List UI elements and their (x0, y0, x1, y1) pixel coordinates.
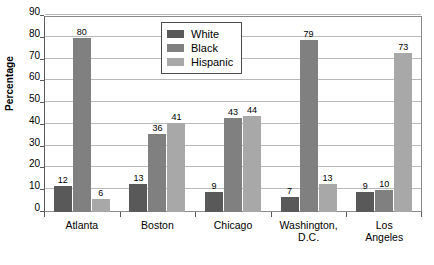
y-axis-tick-label: 90 (0, 6, 40, 17)
bar-value-label: 80 (77, 27, 87, 37)
bar (54, 186, 72, 212)
y-axis-tick-label: 30 (0, 136, 40, 147)
legend-swatch (167, 58, 184, 66)
bar-value-label: 6 (98, 188, 103, 198)
bar-value-label: 10 (379, 179, 389, 189)
bar (356, 192, 374, 212)
bar (167, 123, 185, 212)
bar-value-label: 13 (323, 173, 333, 183)
y-axis-tick-label: 50 (0, 93, 40, 104)
bar (243, 116, 261, 212)
legend-label: Hispanic (191, 55, 233, 69)
y-axis-tick-label: 20 (0, 158, 40, 169)
bar (224, 118, 242, 212)
legend-label: White (191, 27, 219, 41)
legend-item: Hispanic (167, 55, 233, 69)
bar (73, 38, 91, 212)
bar-value-label: 9 (211, 181, 216, 191)
bar-value-label: 13 (133, 173, 143, 183)
y-axis-tick-label: 0 (0, 202, 40, 213)
bar (394, 53, 412, 212)
legend-label: Black (191, 41, 218, 55)
x-axis-tick-label: Los Angeles (365, 219, 403, 243)
bar-group: 77913 (271, 16, 347, 212)
y-axis-tick-label: 40 (0, 114, 40, 125)
bar-value-label: 7 (287, 186, 292, 196)
y-axis-tick-label: 10 (0, 180, 40, 191)
legend-swatch (167, 44, 184, 52)
x-axis-tick-marks (44, 212, 422, 217)
x-axis-tick-label: Washington, D.C. (280, 219, 338, 243)
bar-group: 91073 (346, 16, 422, 212)
x-axis-tick-mark (195, 212, 196, 217)
x-axis-tick-mark (346, 212, 347, 217)
x-axis-tick-label: Atlanta (65, 219, 98, 231)
y-axis-tick-label: 80 (0, 27, 40, 38)
y-axis-tick-labels: 0102030405060708090 (0, 16, 40, 212)
y-axis-tick-label: 60 (0, 71, 40, 82)
bar-value-label: 9 (363, 181, 368, 191)
bar-value-label: 73 (398, 42, 408, 52)
x-axis-tick-mark (44, 212, 45, 217)
x-axis-tick-mark (421, 212, 422, 217)
bar-value-label: 41 (171, 112, 181, 122)
x-axis-tick-mark (120, 212, 121, 217)
bar-group: 12806 (44, 16, 120, 212)
bar (281, 197, 299, 212)
legend-item: Black (167, 41, 233, 55)
x-axis-tick-label: Boston (141, 219, 174, 231)
y-axis-tick-label: 70 (0, 49, 40, 60)
bar (92, 199, 110, 212)
legend: WhiteBlackHispanic (161, 22, 242, 74)
bar-value-label: 79 (304, 29, 314, 39)
bar-value-label: 36 (152, 123, 162, 133)
legend-item: White (167, 27, 233, 41)
legend-swatch (167, 30, 184, 38)
gridline (45, 14, 421, 15)
bar (205, 192, 223, 212)
bar-chart: Percentage 0102030405060708090 128061336… (0, 0, 434, 265)
x-axis-tick-label: Chicago (214, 219, 253, 231)
bar (129, 184, 147, 212)
bar (319, 184, 337, 212)
bar-value-label: 12 (58, 175, 68, 185)
bar (300, 40, 318, 212)
bar-value-label: 44 (247, 105, 257, 115)
x-axis-tick-mark (271, 212, 272, 217)
x-axis-tick-labels: AtlantaBostonChicagoWashington, D.C.Los … (44, 219, 422, 259)
bar-value-label: 43 (228, 107, 238, 117)
bar (375, 190, 393, 212)
bar (148, 134, 166, 212)
